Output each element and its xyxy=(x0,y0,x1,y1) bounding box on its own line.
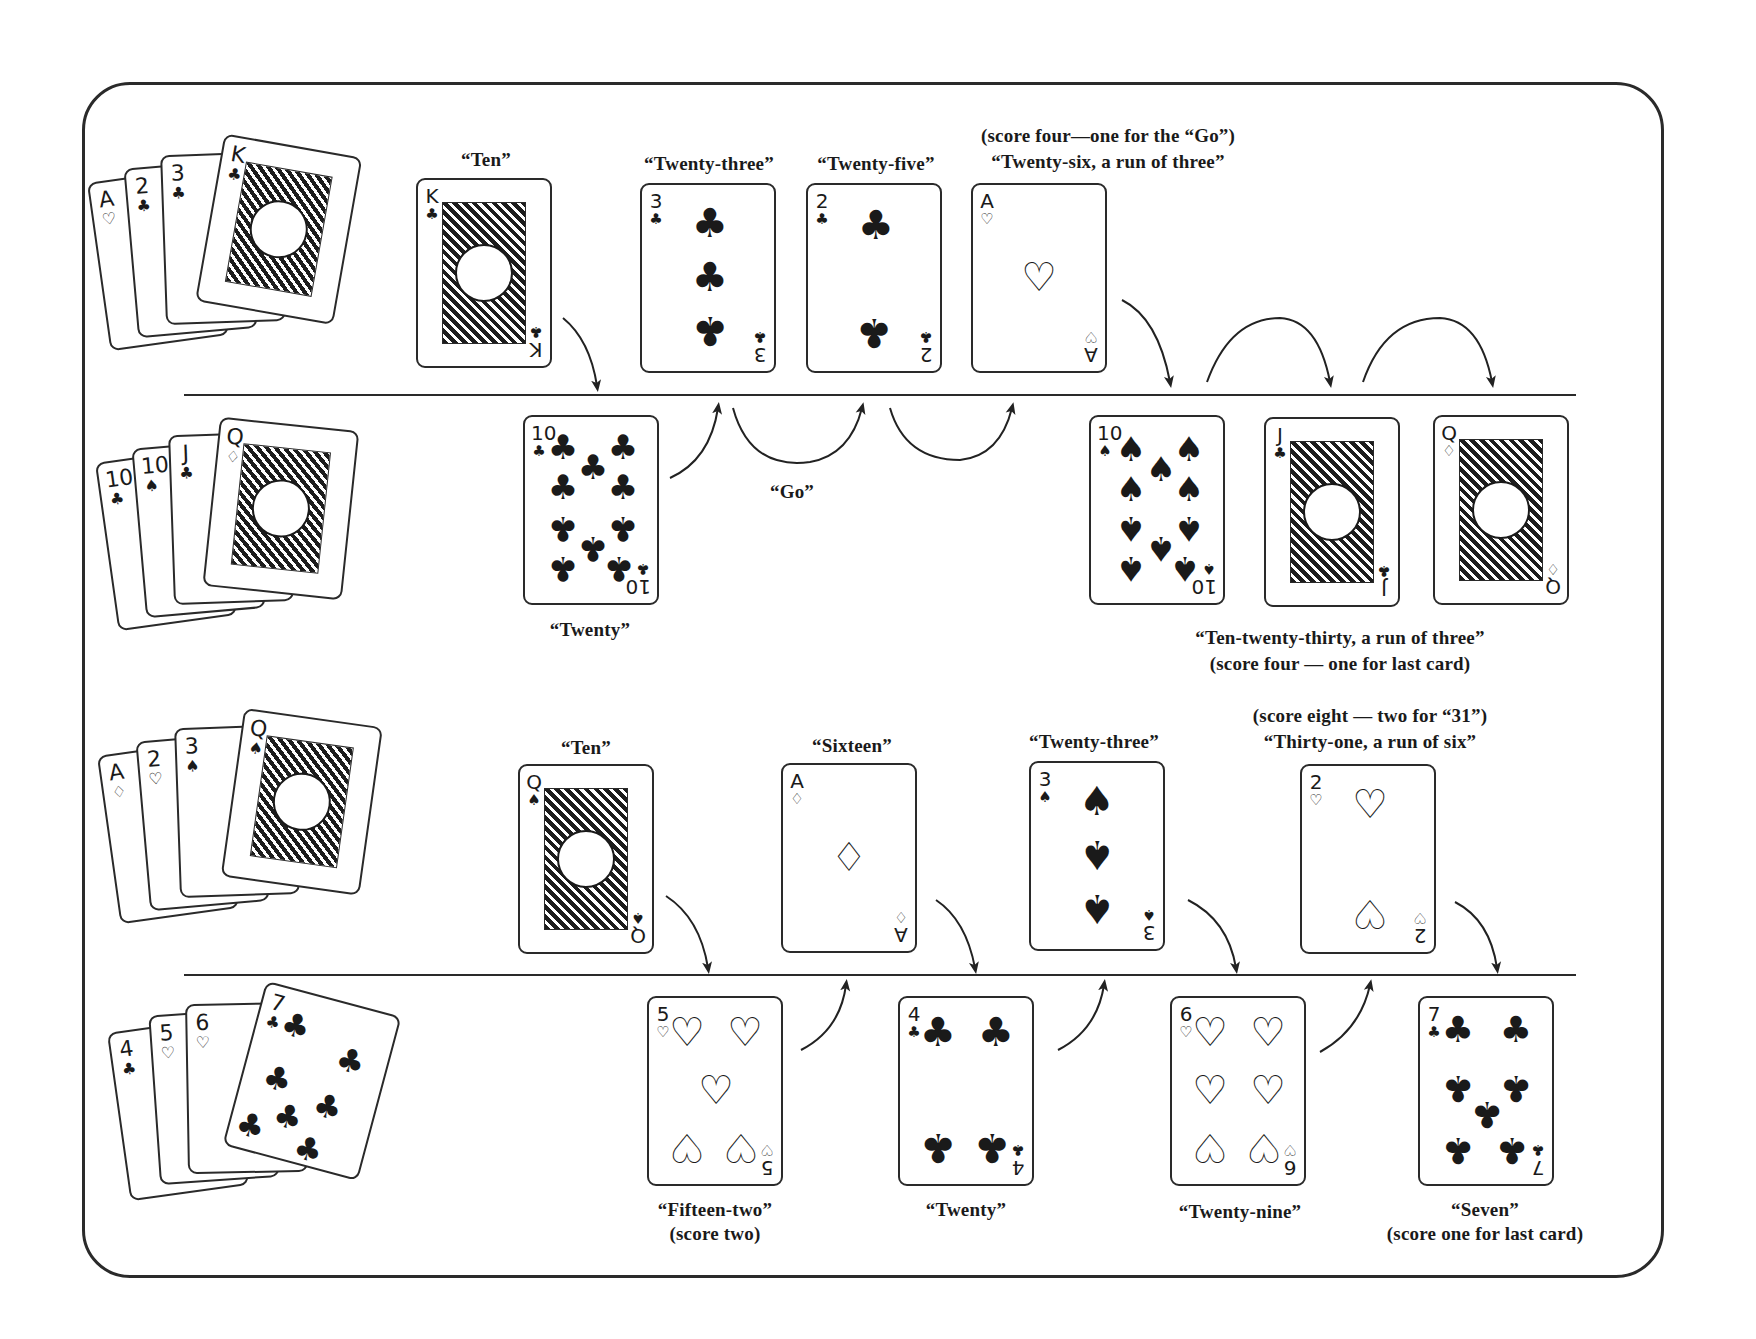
arrow-king-to-ten xyxy=(563,318,597,386)
arrow-two-to-seven xyxy=(1455,902,1497,968)
arrow-go-2 xyxy=(890,408,1012,460)
arrow-six-to-two xyxy=(1320,985,1370,1052)
arrow-five-to-ace xyxy=(801,985,846,1050)
arrow-ace-to-ten-spades xyxy=(1122,300,1170,382)
arrow-ace-to-four xyxy=(936,900,975,968)
arrow-four-to-three xyxy=(1058,985,1104,1050)
arrow-ten-to-three xyxy=(670,408,718,478)
arrow-go-1 xyxy=(733,408,862,463)
arrow-three-to-six xyxy=(1188,900,1236,968)
play-sequence-arrows xyxy=(0,0,1756,1339)
arrow-loop-1 xyxy=(1207,318,1330,382)
arrow-queen-to-five xyxy=(666,896,708,968)
arrow-loop-2 xyxy=(1363,318,1492,382)
